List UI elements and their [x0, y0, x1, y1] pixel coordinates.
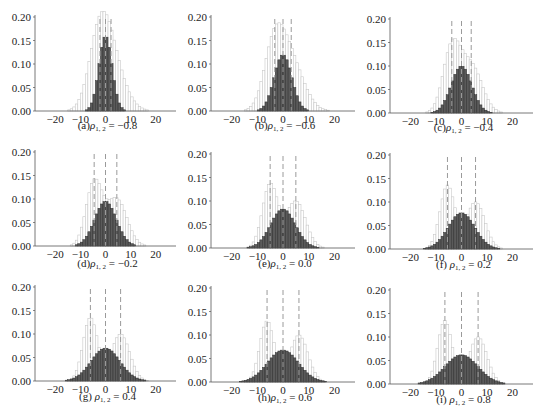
- sum-bar: [273, 355, 276, 382]
- y-tick-label: 0.15: [188, 35, 208, 47]
- mixture-bar: [128, 92, 131, 111]
- mixture-bar: [73, 107, 76, 111]
- sum-bar: [479, 105, 482, 113]
- sum-bar: [467, 217, 470, 249]
- mixture-bar: [314, 103, 317, 111]
- mixture-bar: [255, 98, 258, 111]
- sum-bar: [291, 218, 294, 248]
- sum-bar: [449, 88, 452, 113]
- sum-bar: [479, 236, 482, 249]
- sum-bar: [128, 242, 131, 246]
- mixture-bar: [83, 85, 86, 111]
- sum-bar: [456, 356, 459, 384]
- x-tick-label: 20: [329, 250, 341, 262]
- sum-bar: [433, 376, 436, 384]
- x-tick-label: −20: [402, 115, 420, 127]
- x-tick-label: 20: [507, 251, 519, 263]
- y-tick-label: 0.15: [188, 306, 208, 318]
- panel-a: 0.000.050.100.150.20−20−1001020(a)ρ1, 2 …: [12, 11, 176, 133]
- panel-g: 0.000.050.100.150.20−20−1001020(g) ρ1, 2…: [12, 281, 176, 404]
- x-tick-label: 20: [329, 113, 341, 125]
- panel-caption: (b)ρ1, 2 = −0.6: [255, 119, 316, 133]
- x-tick-label: 20: [507, 386, 519, 398]
- sum-bar: [451, 220, 454, 249]
- sum-bar: [88, 232, 91, 246]
- mixture-bar: [487, 99, 490, 113]
- sum-bar: [293, 88, 296, 111]
- sum-bar: [298, 232, 301, 248]
- sum-bar: [275, 353, 278, 382]
- mixture-bar: [73, 243, 76, 246]
- sum-bar: [80, 373, 83, 381]
- x-tick-label: 0: [280, 384, 286, 396]
- sum-bar: [444, 232, 447, 249]
- sum-bar: [133, 377, 136, 381]
- sum-bar: [464, 69, 467, 113]
- sum-bar: [474, 95, 477, 113]
- y-tick-label: 0.10: [188, 329, 208, 341]
- mixture-bar: [90, 48, 93, 111]
- sum-bar: [311, 377, 314, 382]
- sum-bar: [431, 378, 434, 384]
- x-tick-label: 20: [150, 248, 162, 260]
- mixture-bar: [88, 62, 91, 111]
- sum-bar: [454, 74, 457, 113]
- y-tick-label: 0.15: [12, 35, 32, 47]
- y-tick-label: 0.00: [367, 378, 387, 390]
- y-tick-label: 0.05: [188, 82, 208, 94]
- mixture-bar: [319, 107, 322, 111]
- sum-bar: [270, 88, 273, 111]
- sum-bar: [111, 351, 114, 381]
- y-tick-label: 0.00: [12, 105, 32, 117]
- sum-bar: [255, 375, 258, 382]
- x-tick-label: −20: [223, 384, 241, 396]
- sum-bar: [454, 217, 457, 249]
- sum-bar: [278, 60, 281, 111]
- y-tick-label: 0.00: [12, 375, 32, 387]
- sum-bar: [126, 240, 129, 246]
- y-tick-label: 0.15: [12, 170, 32, 182]
- sum-bar: [446, 364, 449, 384]
- mixture-bar: [141, 108, 144, 111]
- y-tick-label: 0.10: [12, 193, 32, 205]
- sum-bar: [106, 202, 109, 246]
- mixture-bar: [252, 103, 255, 111]
- sum-bar: [126, 370, 129, 381]
- sum-bar: [436, 242, 439, 249]
- y-tick-label: 0.15: [367, 173, 387, 185]
- sum-bar: [113, 214, 116, 246]
- sum-bar: [296, 361, 299, 382]
- sum-bar: [80, 242, 83, 246]
- mixture-bar: [311, 99, 314, 111]
- mixture-bar: [495, 110, 498, 113]
- sum-bar: [487, 376, 490, 384]
- sum-bar: [288, 353, 291, 382]
- y-tick-label: 0.05: [12, 352, 32, 364]
- sum-bar: [301, 106, 304, 111]
- sum-bar: [301, 236, 304, 248]
- sum-bar: [252, 377, 255, 382]
- sum-bar: [278, 211, 281, 248]
- y-tick-label: 0.05: [188, 219, 208, 231]
- x-tick-label: 20: [329, 384, 341, 396]
- mixture-bar: [138, 242, 141, 246]
- mixture-bar: [257, 91, 260, 111]
- sum-bar: [111, 208, 114, 246]
- sum-bar: [309, 375, 312, 382]
- mixture-bar: [131, 97, 134, 111]
- sum-bar: [464, 356, 467, 384]
- histogram-grid-figure: 0.000.050.100.150.20−20−1001020(a)ρ1, 2 …: [0, 0, 537, 418]
- sum-bar: [85, 367, 88, 381]
- sum-bar: [472, 224, 475, 249]
- panel-b: 0.000.050.100.150.20−20−1001020(b)ρ1, 2 …: [188, 11, 355, 133]
- y-tick-label: 0.20: [188, 11, 208, 23]
- y-tick-label: 0.00: [188, 105, 208, 117]
- y-tick-label: 0.20: [12, 281, 32, 293]
- sum-bar: [487, 244, 490, 249]
- sum-bar: [288, 68, 291, 111]
- sum-bar: [136, 378, 139, 381]
- sum-bar: [436, 374, 439, 384]
- mixture-bar: [75, 104, 78, 111]
- mixture-bar: [126, 86, 129, 111]
- panel-e: 0.000.050.100.150.20−20−1001020(e)ρ1, 2 …: [188, 148, 355, 271]
